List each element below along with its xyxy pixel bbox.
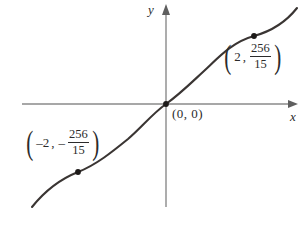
upper-right-point-label: ( 2 , 256 15 ) xyxy=(222,42,283,71)
y-axis-arrowhead xyxy=(162,4,170,15)
x-axis-label: x xyxy=(290,110,296,123)
close-paren: ) xyxy=(274,43,281,71)
x-axis-arrowhead xyxy=(288,100,298,108)
comma: , xyxy=(50,136,55,149)
close-paren: ) xyxy=(92,129,99,157)
marked-point-upper-right xyxy=(251,33,257,39)
comma: , xyxy=(242,50,247,63)
fraction-denominator: 15 xyxy=(71,144,86,157)
function-curve xyxy=(32,8,297,207)
negative-sign: – xyxy=(58,136,67,149)
marked-point-origin xyxy=(163,101,169,107)
fraction: 256 15 xyxy=(68,128,89,157)
x-value: –2 xyxy=(35,136,50,149)
y-axis-label: y xyxy=(148,3,154,16)
open-paren: ( xyxy=(26,129,33,157)
lower-left-point-label: ( –2 , – 256 15 ) xyxy=(24,128,101,157)
plot-canvas xyxy=(0,0,307,248)
origin-point-label: (0, 0) xyxy=(172,107,203,120)
graph-figure: y x (0, 0) ( 2 , 256 15 ) ( –2 , xyxy=(0,0,307,248)
fraction-denominator: 15 xyxy=(253,58,268,71)
fraction-numerator: 256 xyxy=(68,128,89,141)
fraction-numerator: 256 xyxy=(250,42,271,55)
marked-point-lower-left xyxy=(75,169,81,175)
fraction: 256 15 xyxy=(250,42,271,71)
x-value: 2 xyxy=(233,50,242,63)
open-paren: ( xyxy=(224,43,231,71)
